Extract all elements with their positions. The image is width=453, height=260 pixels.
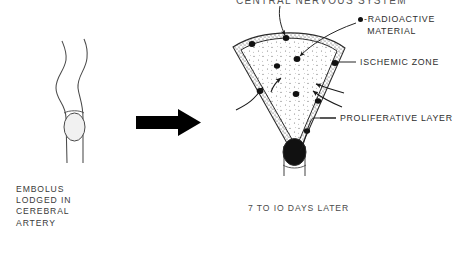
label-ischemic-zone: ISCHEMIC ZONE — [360, 57, 439, 69]
leader-cns — [279, 6, 285, 35]
label-radioactive-material: -RADIOACTIVE MATERIAL — [364, 14, 435, 37]
embolus-plug — [64, 113, 85, 141]
caption-embolus-lodged: EMBOLUS LODGED IN CEREBRAL ARTERY — [16, 184, 71, 229]
infarct-wedge-illustration — [233, 6, 356, 176]
stem-embolus — [283, 139, 306, 166]
radioactive-dot-key-icon — [358, 17, 363, 22]
caption-days-later: 7 TO IO DAYS LATER — [248, 203, 349, 214]
label-proliferative-layer: PROLIFERATIVE LAYER — [340, 113, 453, 125]
transition-arrow — [136, 109, 201, 136]
cerebral-artery-illustration — [56, 39, 87, 163]
diagram-title-cns: CENTRAL NERVOUS SYSTEM — [236, 0, 407, 6]
feeding-artery-stem — [283, 139, 306, 177]
